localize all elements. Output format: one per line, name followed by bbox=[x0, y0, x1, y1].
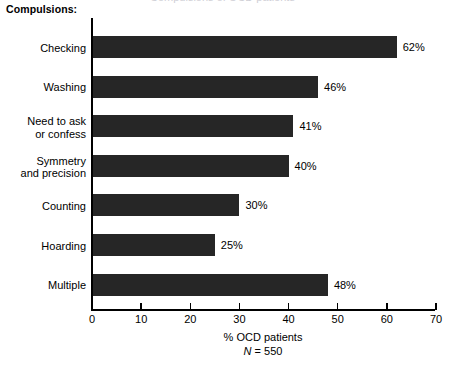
x-axis-caption-line: % OCD patients bbox=[91, 331, 435, 345]
x-axis-tick bbox=[91, 303, 92, 310]
bar-row: Counting30% bbox=[0, 194, 461, 234]
bar bbox=[92, 36, 397, 58]
bar-row: Symmetryand precision40% bbox=[0, 155, 461, 195]
x-axis-tick bbox=[386, 303, 387, 310]
x-axis-tick-label: 20 bbox=[184, 313, 196, 325]
x-axis-line bbox=[91, 309, 435, 311]
x-axis-tick bbox=[239, 303, 240, 310]
bar-category-label: Counting bbox=[0, 200, 86, 213]
x-axis-tick-label: 50 bbox=[332, 313, 344, 325]
x-axis-tick-label: 30 bbox=[233, 313, 245, 325]
bar-row: Hoarding25% bbox=[0, 234, 461, 274]
y-axis-line bbox=[91, 18, 93, 310]
bar bbox=[92, 115, 293, 137]
x-axis-tick bbox=[288, 303, 289, 310]
x-axis-tick bbox=[140, 303, 141, 310]
sample-size-annotation: N = 550 bbox=[91, 345, 435, 359]
x-axis-tick bbox=[435, 303, 436, 310]
bar bbox=[92, 194, 239, 216]
sample-size-symbol: N bbox=[244, 345, 252, 357]
bar-category-label: Checking bbox=[0, 42, 86, 55]
bar-category-label-line1: Multiple bbox=[0, 279, 86, 292]
bar-category-label-line1: Hoarding bbox=[0, 240, 86, 253]
x-axis-tick-label: 10 bbox=[135, 313, 147, 325]
bar-category-label: Need to askor confess bbox=[0, 115, 86, 140]
bar-category-label-line1: Counting bbox=[0, 200, 86, 213]
bar-value-label: 48% bbox=[334, 274, 356, 296]
bar-category-label-line1: Checking bbox=[0, 42, 86, 55]
bar-row: Washing46% bbox=[0, 76, 461, 116]
bar-category-label-line1: Symmetry bbox=[0, 155, 86, 168]
bar-row: Need to askor confess41% bbox=[0, 115, 461, 155]
bar-value-label: 25% bbox=[221, 234, 243, 256]
bar-row: Checking62% bbox=[0, 36, 461, 76]
x-axis-tick-label: 70 bbox=[430, 313, 442, 325]
bar-value-label: 62% bbox=[403, 36, 425, 58]
bar-chart: Checking62%Washing46%Need to askor confe… bbox=[0, 0, 461, 365]
bar-category-label: Multiple bbox=[0, 279, 86, 292]
x-axis-tick bbox=[190, 303, 191, 310]
bar-row: Multiple48% bbox=[0, 274, 461, 314]
x-axis-tick-label: 60 bbox=[381, 313, 393, 325]
bar-category-label-line1: Washing bbox=[0, 81, 86, 94]
bar bbox=[92, 155, 289, 177]
bar-value-label: 41% bbox=[299, 115, 321, 137]
bar-category-label-line2: and precision bbox=[0, 167, 86, 180]
bar-category-label: Hoarding bbox=[0, 240, 86, 253]
bar-value-label: 40% bbox=[295, 155, 317, 177]
x-axis-tick bbox=[337, 303, 338, 310]
bar-category-label: Symmetryand precision bbox=[0, 155, 86, 180]
bar-value-label: 46% bbox=[324, 76, 346, 98]
bar-category-label-line1: Need to ask bbox=[0, 115, 86, 128]
x-axis-tick-label: 0 bbox=[89, 313, 95, 325]
bar-value-label: 30% bbox=[245, 194, 267, 216]
x-axis-caption: % OCD patientsN = 550 bbox=[91, 331, 435, 358]
bar-category-label-line2: or confess bbox=[0, 128, 86, 141]
x-axis-tick-label: 40 bbox=[282, 313, 294, 325]
bar-category-label: Washing bbox=[0, 81, 86, 94]
bar bbox=[92, 76, 318, 98]
sample-size-value: = 550 bbox=[252, 345, 283, 357]
bar bbox=[92, 274, 328, 296]
bar bbox=[92, 234, 215, 256]
